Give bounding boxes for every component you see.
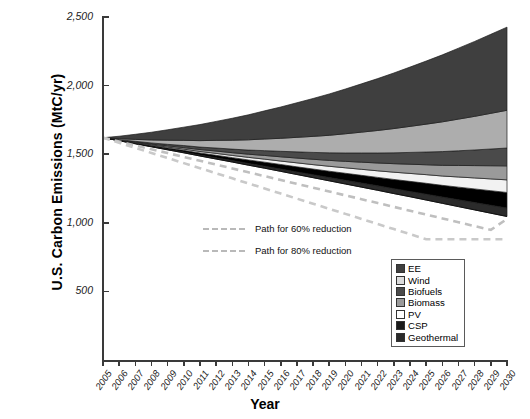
x-tick-mark — [328, 360, 330, 366]
x-tick-mark — [312, 360, 314, 366]
legend-item-label: Wind — [408, 275, 430, 286]
legend-item-label: PV — [408, 309, 421, 320]
x-tick-mark — [442, 360, 444, 366]
y-tick-mark — [103, 153, 109, 155]
x-tick-mark — [377, 360, 379, 366]
x-tick-mark — [474, 360, 476, 366]
legend-item-label: CSP — [408, 320, 428, 331]
legend-item-ee[interactable]: EE — [396, 263, 461, 274]
path-annotation-swatch — [203, 250, 245, 252]
x-tick-mark — [490, 360, 492, 366]
legend-item-label: EE — [408, 263, 421, 274]
legend-swatch-icon — [396, 333, 405, 342]
y-tick-label: 1,000 — [33, 216, 93, 228]
x-tick-mark — [361, 360, 363, 366]
x-axis-line — [102, 360, 508, 362]
x-tick-mark — [248, 360, 250, 366]
y-tick-label: 1,500 — [33, 147, 93, 159]
x-tick-mark — [345, 360, 347, 366]
chart-plot-area — [0, 0, 530, 419]
legend-item-label: Biofuels — [408, 286, 442, 297]
x-tick-mark — [135, 360, 137, 366]
path-annotation-label: Path for 60% reduction — [255, 223, 352, 234]
x-tick-mark — [296, 360, 298, 366]
x-tick-mark — [102, 360, 104, 366]
legend-item-label: Biomass — [408, 297, 445, 308]
legend-swatch-icon — [396, 298, 405, 307]
y-axis-line — [102, 16, 104, 362]
legend-swatch-icon — [396, 287, 405, 296]
y-tick-mark — [103, 85, 109, 87]
legend-item-biomass[interactable]: Biomass — [396, 297, 461, 308]
x-tick-mark — [199, 360, 201, 366]
x-tick-mark — [393, 360, 395, 366]
y-tick-mark — [103, 222, 109, 224]
legend-item-label: Geothermal — [408, 332, 458, 343]
x-tick-mark — [280, 360, 282, 366]
chart-figure: U.S. Carbon Emissions (MtC/yr) Year 2,50… — [0, 0, 530, 419]
y-tick-mark — [103, 16, 109, 18]
legend-item-geothermal[interactable]: Geothermal — [396, 331, 461, 342]
legend-swatch-icon — [396, 264, 405, 273]
path-annotation-swatch — [203, 228, 245, 230]
legend-swatch-icon — [396, 310, 405, 319]
x-tick-mark — [215, 360, 217, 366]
y-tick-label: 500 — [33, 284, 93, 296]
x-tick-mark — [458, 360, 460, 366]
x-tick-mark — [232, 360, 234, 366]
x-tick-mark — [167, 360, 169, 366]
legend-swatch-icon — [396, 276, 405, 285]
chart-legend: EEWindBiofuelsBiomassPVCSPGeothermal — [391, 259, 465, 347]
x-tick-mark — [409, 360, 411, 366]
x-tick-mark — [506, 360, 508, 366]
legend-item-biofuels[interactable]: Biofuels — [396, 286, 461, 297]
x-tick-mark — [151, 360, 153, 366]
y-tick-label: 2,000 — [33, 79, 93, 91]
legend-item-pv[interactable]: PV — [396, 309, 461, 320]
x-tick-mark — [425, 360, 427, 366]
legend-swatch-icon — [396, 321, 405, 330]
path-annotation-label: Path for 80% reduction — [255, 245, 352, 256]
legend-item-csp[interactable]: CSP — [396, 320, 461, 331]
x-tick-mark — [264, 360, 266, 366]
x-tick-mark — [118, 360, 120, 366]
y-tick-label: 2,500 — [33, 10, 93, 22]
x-tick-mark — [183, 360, 185, 366]
legend-item-wind[interactable]: Wind — [396, 274, 461, 285]
y-tick-mark — [103, 291, 109, 293]
